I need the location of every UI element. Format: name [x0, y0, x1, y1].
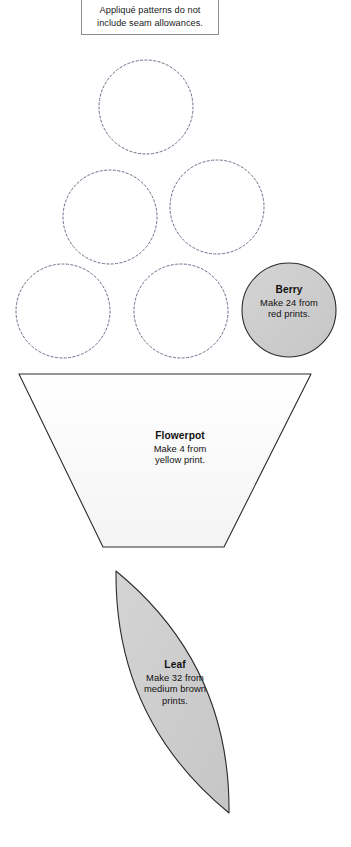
- pattern-sheet: Appliqué patterns do not include seam al…: [0, 0, 351, 847]
- placement-circle-group: [16, 60, 264, 358]
- berry-piece-shape: [242, 263, 336, 357]
- note-line-2: include seam allowances.: [97, 18, 203, 28]
- seam-allowance-note: Appliqué patterns do not include seam al…: [81, 0, 219, 35]
- placement-circle-3: [170, 160, 264, 254]
- pattern-shapes-canvas: [0, 0, 351, 847]
- leaf-piece-shape: [116, 571, 229, 813]
- cut-piece-group: [19, 263, 336, 813]
- flowerpot-piece-shape: [19, 374, 311, 547]
- placement-circle-2: [63, 170, 157, 264]
- placement-circle-4: [16, 264, 110, 358]
- placement-circle-1: [99, 60, 193, 154]
- seam-allowance-note-text: Appliqué patterns do not include seam al…: [97, 4, 203, 29]
- note-line-1: Appliqué patterns do not: [100, 5, 201, 15]
- placement-circle-5: [134, 264, 228, 358]
